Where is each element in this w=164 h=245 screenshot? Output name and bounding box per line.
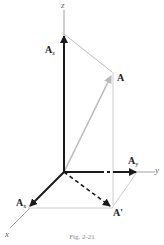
- z-axis-label: z: [61, 1, 65, 10]
- y-axis-label: y: [155, 166, 159, 175]
- figure-caption: Fig. 2-21: [0, 233, 164, 241]
- vector-A: [64, 76, 111, 172]
- vector-Aprime: [64, 172, 110, 206]
- label-A: A: [117, 73, 124, 83]
- label-Ax: Ax: [16, 198, 26, 209]
- x-axis: [10, 208, 30, 228]
- label-Ay: Ay: [128, 156, 138, 167]
- label-Aprime: A': [113, 208, 123, 218]
- vector-Ax: [30, 172, 64, 206]
- label-Az: Az: [45, 45, 55, 56]
